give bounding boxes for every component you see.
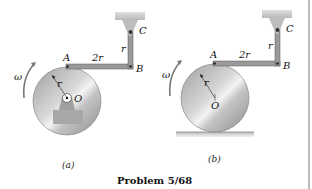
- pin-b: [276, 62, 279, 65]
- pin-c: [276, 28, 280, 32]
- ground: [176, 132, 254, 137]
- bracket-c-mount: [262, 10, 292, 18]
- link-ab: [213, 61, 280, 66]
- label-omega: ω: [14, 71, 22, 82]
- pin-a: [66, 65, 69, 68]
- panel-b: ω A 2r B C r r O (b): [162, 10, 294, 164]
- bearing-base: [53, 110, 83, 124]
- label-b: B: [135, 63, 143, 74]
- omega-arrow: [170, 62, 180, 96]
- label-ab-length: 2r: [238, 49, 251, 60]
- pin-b: [129, 65, 132, 68]
- link-ab: [66, 64, 133, 69]
- label-b: B: [282, 60, 290, 71]
- bracket-c-mount: [115, 12, 145, 20]
- label-r-link: r: [121, 43, 127, 54]
- label-c: C: [139, 25, 147, 36]
- label-o: O: [74, 93, 82, 104]
- figure-title: Problem 5/68: [117, 175, 192, 186]
- panel-a: ω A 2r B C r r O (a): [14, 12, 147, 170]
- label-o: O: [211, 100, 219, 111]
- label-c: C: [286, 23, 294, 34]
- caption-a: (a): [62, 160, 75, 170]
- label-a: A: [62, 52, 70, 63]
- label-omega: ω: [162, 69, 170, 80]
- omega-arrow: [24, 64, 34, 98]
- pin-c: [129, 30, 133, 34]
- label-ab-length: 2r: [91, 52, 104, 63]
- mechanism-diagram: ω A 2r B C r r O (a) ω A 2r: [0, 0, 312, 189]
- pin-a: [213, 62, 216, 65]
- label-r-link: r: [268, 40, 274, 51]
- label-a: A: [209, 49, 217, 60]
- caption-b: (b): [208, 154, 221, 164]
